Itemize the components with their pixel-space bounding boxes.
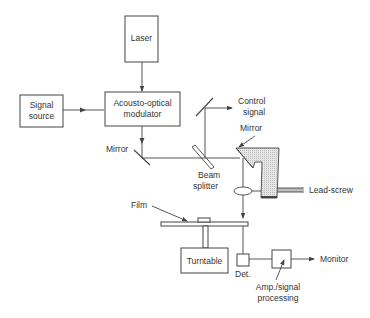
right-mirror-label: Mirror: [240, 123, 262, 133]
film-platter: [161, 222, 248, 226]
upper-mirror: [196, 98, 213, 116]
turntable-box: Turntable: [181, 248, 228, 273]
turntable-spindle: [203, 226, 208, 248]
turntable-label: Turntable: [187, 256, 223, 266]
beam-splitter-label-2: splitter: [193, 181, 218, 191]
film-pointer: [152, 206, 187, 221]
optical-diagram: Laser Signal source Acousto-optical modu…: [0, 0, 370, 318]
right-mirror-pointer: [239, 136, 255, 147]
control-signal-label-1: Control: [238, 96, 266, 106]
film-label: Film: [131, 200, 147, 210]
aom-down-arrowhead-icon: [140, 138, 145, 144]
film-sample: [198, 218, 210, 222]
signal-source-label-1: Signal: [30, 100, 54, 110]
monitor-label: Monitor: [320, 254, 349, 264]
signal-arrowhead-icon: [80, 108, 86, 113]
detector-box: [237, 254, 249, 266]
aom-label-2: modulator: [124, 109, 162, 119]
beam-splitter: [192, 145, 214, 169]
aom-label-1: Acousto-optical: [113, 98, 171, 108]
laser-label: Laser: [131, 33, 152, 43]
amp-label-2: processing: [257, 293, 298, 303]
lead-screw-label: Lead-screw: [309, 185, 354, 195]
beam-splitter-label-1: Beam: [198, 170, 220, 180]
signal-source-box: Signal source: [20, 95, 63, 127]
lens: [234, 187, 252, 195]
amp-label-1: Amp./signal: [256, 282, 301, 292]
lead-screw: [277, 187, 303, 193]
laser-box: Laser: [125, 16, 158, 62]
signal-source-label-2: source: [29, 111, 55, 121]
control-signal-label-2: signal: [243, 107, 265, 117]
left-mirror-label: Mirror: [106, 144, 128, 154]
detector-label: Det.: [235, 269, 251, 279]
aom-box: Acousto-optical modulator: [105, 92, 180, 126]
